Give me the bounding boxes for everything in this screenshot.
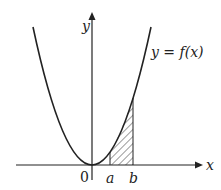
- origin-label: 0: [80, 169, 89, 185]
- y-axis-label: y: [81, 18, 91, 34]
- area-under-curve-diagram: y x 0 a b y = f(x): [0, 0, 221, 190]
- curve-label: y = f(x): [150, 44, 204, 60]
- x-axis-label: x: [206, 157, 214, 173]
- point-a-label: a: [106, 170, 114, 186]
- point-b-label: b: [129, 170, 138, 186]
- x-axis-arrow-icon: [195, 162, 203, 169]
